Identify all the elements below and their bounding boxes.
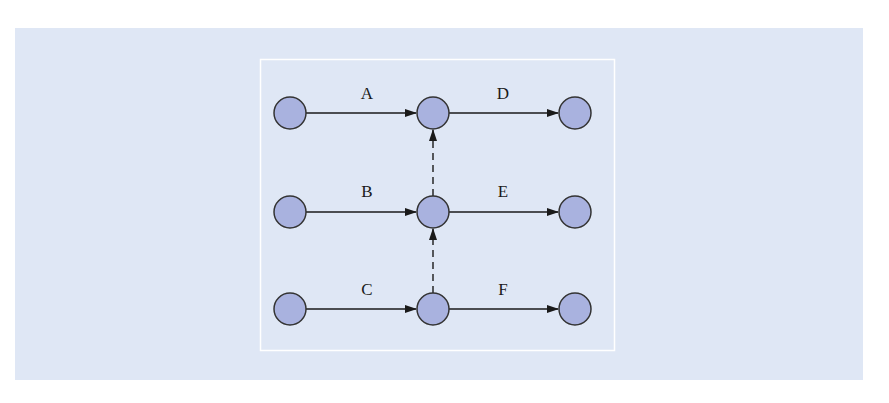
- node-8: [417, 293, 449, 325]
- node-4: [274, 196, 306, 228]
- edge-label-C: C: [361, 280, 372, 299]
- node-2: [417, 97, 449, 129]
- node-7: [274, 293, 306, 325]
- node-6: [559, 196, 591, 228]
- edge-label-B: B: [361, 182, 372, 201]
- activity-network-diagram: A D B E C F: [0, 0, 889, 403]
- node-3: [559, 97, 591, 129]
- edge-label-F: F: [498, 280, 507, 299]
- node-5: [417, 196, 449, 228]
- edge-label-E: E: [498, 182, 508, 201]
- node-1: [274, 97, 306, 129]
- edge-label-D: D: [497, 84, 509, 103]
- node-9: [559, 293, 591, 325]
- edge-label-A: A: [361, 84, 374, 103]
